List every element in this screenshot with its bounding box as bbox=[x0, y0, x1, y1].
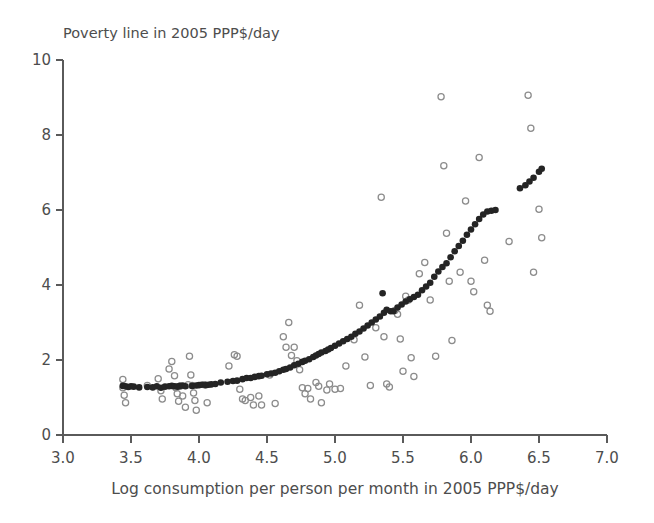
fitted-point bbox=[427, 279, 434, 286]
observed-point bbox=[248, 394, 254, 400]
fitted-point bbox=[182, 383, 189, 390]
observed-point bbox=[343, 363, 349, 369]
observed-point bbox=[155, 376, 161, 382]
observed-point bbox=[506, 238, 512, 244]
x-tick-label: 6.0 bbox=[459, 449, 483, 467]
scatter-plot-canvas: Poverty line in 2005 PPP$/day 0246810 3.… bbox=[0, 0, 654, 523]
observed-point bbox=[411, 373, 417, 379]
fitted-point bbox=[472, 221, 479, 228]
observed-point bbox=[283, 344, 289, 350]
fitted-point bbox=[431, 273, 438, 280]
observed-point bbox=[186, 353, 192, 359]
observed-point bbox=[166, 366, 172, 372]
y-tick-label: 0 bbox=[41, 426, 51, 444]
observed-point bbox=[318, 400, 324, 406]
observed-point bbox=[324, 387, 330, 393]
observed-point bbox=[476, 154, 482, 160]
x-axis-title: Log consumption per person per month in … bbox=[111, 480, 559, 498]
fitted-point bbox=[447, 254, 454, 261]
observed-point bbox=[226, 363, 232, 369]
observed-point bbox=[192, 397, 198, 403]
observed-point bbox=[482, 257, 488, 263]
observed-point bbox=[397, 336, 403, 342]
observed-point bbox=[443, 230, 449, 236]
fitted-point bbox=[538, 165, 545, 172]
observed-point bbox=[416, 271, 422, 277]
x-axis-ticks: 3.03.54.04.55.05.56.06.57.0 bbox=[51, 435, 619, 467]
observed-point bbox=[250, 402, 256, 408]
fitted-point bbox=[492, 207, 499, 214]
observed-point bbox=[362, 354, 368, 360]
y-tick-label: 6 bbox=[41, 201, 51, 219]
y-tick-label: 10 bbox=[32, 51, 51, 69]
observed-point bbox=[171, 373, 177, 379]
observed-point bbox=[438, 94, 444, 100]
observed-point bbox=[427, 297, 433, 303]
y-tick-label: 8 bbox=[41, 126, 51, 144]
chart-figure: Poverty line in 2005 PPP$/day 0246810 3.… bbox=[0, 0, 654, 523]
observed-point bbox=[484, 302, 490, 308]
observed-point bbox=[159, 396, 165, 402]
observed-point bbox=[373, 325, 379, 331]
observed-point bbox=[258, 402, 264, 408]
observed-point bbox=[272, 400, 278, 406]
observed-point bbox=[120, 376, 126, 382]
observed-point bbox=[525, 92, 531, 98]
observed-point bbox=[487, 308, 493, 314]
observed-point bbox=[326, 381, 332, 387]
y-tick-label: 4 bbox=[41, 276, 51, 294]
observed-point bbox=[188, 372, 194, 378]
observed-point bbox=[468, 278, 474, 284]
observed-point bbox=[307, 396, 313, 402]
fitted-point bbox=[217, 379, 224, 386]
observed-point bbox=[530, 269, 536, 275]
observed-point bbox=[539, 235, 545, 241]
fitted-point bbox=[136, 384, 143, 391]
observed-point bbox=[280, 334, 286, 340]
x-tick-label: 3.5 bbox=[119, 449, 143, 467]
observed-point bbox=[182, 404, 188, 410]
observed-point bbox=[422, 259, 428, 265]
observed-point bbox=[256, 393, 262, 399]
observed-point bbox=[536, 206, 542, 212]
observed-point bbox=[297, 367, 303, 373]
observed-point bbox=[381, 334, 387, 340]
observed-point bbox=[457, 269, 463, 275]
fitted-point bbox=[379, 290, 386, 297]
observed-point bbox=[291, 344, 297, 350]
observed-point bbox=[433, 353, 439, 359]
series-fitted-points bbox=[120, 165, 545, 391]
observed-point bbox=[193, 407, 199, 413]
fitted-point bbox=[451, 248, 458, 255]
observed-point bbox=[180, 393, 186, 399]
x-tick-label: 3.0 bbox=[51, 449, 75, 467]
observed-point bbox=[408, 355, 414, 361]
observed-point bbox=[471, 289, 477, 295]
observed-point bbox=[367, 382, 373, 388]
observed-point bbox=[204, 400, 210, 406]
fitted-point bbox=[443, 260, 450, 267]
observed-point bbox=[190, 390, 196, 396]
observed-point bbox=[378, 194, 384, 200]
series-observed-points bbox=[120, 92, 545, 413]
page-title: Poverty line in 2005 PPP$/day bbox=[63, 25, 280, 41]
x-tick-label: 4.0 bbox=[187, 449, 211, 467]
observed-point bbox=[356, 302, 362, 308]
observed-point bbox=[446, 278, 452, 284]
x-tick-label: 7.0 bbox=[595, 449, 619, 467]
y-axis-ticks: 0246810 bbox=[32, 51, 63, 444]
x-tick-label: 5.0 bbox=[323, 449, 347, 467]
observed-point bbox=[122, 400, 128, 406]
x-tick-label: 4.5 bbox=[255, 449, 279, 467]
fitted-point bbox=[460, 237, 467, 244]
y-tick-label: 2 bbox=[41, 351, 51, 369]
observed-point bbox=[169, 358, 175, 364]
observed-point bbox=[441, 163, 447, 169]
observed-point bbox=[237, 386, 243, 392]
observed-point bbox=[400, 368, 406, 374]
fitted-point bbox=[468, 226, 475, 233]
fitted-point bbox=[530, 174, 537, 181]
fitted-point bbox=[455, 243, 462, 250]
fitted-point bbox=[464, 231, 471, 238]
x-tick-label: 5.5 bbox=[391, 449, 415, 467]
